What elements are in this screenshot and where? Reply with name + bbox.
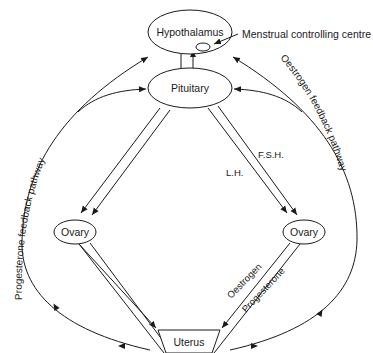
hypothalamus-node: Hypothalamus — [148, 10, 232, 54]
menstrual-cycle-diagram: Progesterone feedback pathway Oestrogen … — [0, 0, 373, 353]
pituitary-to-right-ovary — [208, 106, 297, 215]
uterus-node: Uterus — [158, 330, 220, 353]
right-ovary-label: Ovary — [290, 226, 319, 238]
uterus-label: Uterus — [174, 336, 205, 348]
left-ovary-to-uterus — [79, 243, 172, 353]
left-ovary-label: Ovary — [61, 226, 90, 238]
left-ovary-node: Ovary — [54, 220, 96, 244]
oestrogen-feedback-pathway-label: Oestrogen feedback pathway — [278, 52, 349, 172]
progesterone-feedback-pathway — [22, 57, 150, 350]
menstrual-controlling-centre — [196, 43, 210, 51]
right-ovary-node: Ovary — [283, 220, 325, 244]
menstrual-centre-label: Menstrual controlling centre — [242, 28, 371, 40]
hypothalamus-label: Hypothalamus — [156, 26, 223, 38]
pituitary-node: Pituitary — [148, 68, 232, 108]
fsh-label: F.S.H. — [258, 149, 284, 160]
pituitary-to-left-ovary — [81, 108, 170, 215]
lh-label: L.H. — [226, 167, 243, 178]
pituitary-label: Pituitary — [171, 82, 210, 94]
